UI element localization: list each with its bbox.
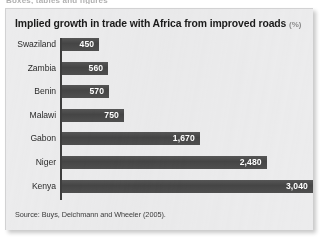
bar-value-label: 450 — [80, 38, 95, 51]
bar: 2,480 — [62, 156, 267, 169]
bar: 1,670 — [62, 132, 200, 145]
bar-category-label: Niger — [6, 156, 56, 169]
bar: 450 — [62, 38, 99, 51]
bar-category-label: Kenya — [6, 180, 56, 193]
bar-row: Zambia560 — [6, 62, 314, 75]
bar: 570 — [62, 85, 109, 98]
bar-value-label: 560 — [89, 62, 104, 75]
bar-row: Malawi750 — [6, 109, 314, 122]
bar-category-label: Benin — [6, 85, 56, 98]
bar-row: Gabon1,670 — [6, 132, 314, 145]
bar-row: Kenya3,040 — [6, 180, 314, 193]
bar-row: Swaziland450 — [6, 38, 314, 51]
bar-chart-plot-area: Swaziland450Zambia560Benin570Malawi750Ga… — [6, 36, 314, 202]
bar-category-label: Gabon — [6, 132, 56, 145]
bar-category-label: Malawi — [6, 109, 56, 122]
bar-value-label: 1,670 — [173, 132, 195, 145]
bar-value-label: 2,480 — [240, 156, 262, 169]
bar-row: Niger2,480 — [6, 156, 314, 169]
figure-title-unit: (%) — [289, 20, 301, 29]
bar: 750 — [62, 109, 124, 122]
figure-page: Boxes, tables and figures Implied growth… — [0, 0, 325, 237]
figure-panel: Implied growth in trade with Africa from… — [5, 8, 313, 230]
bar: 3,040 — [62, 180, 313, 193]
figure-title-text: Implied growth in trade with Africa from… — [15, 18, 286, 29]
bar-value-label: 3,040 — [286, 180, 308, 193]
clipped-running-head: Boxes, tables and figures — [6, 0, 216, 4]
bar-value-label: 570 — [89, 85, 104, 98]
bar: 560 — [62, 62, 108, 75]
bar-row: Benin570 — [6, 85, 314, 98]
bar-value-label: 750 — [104, 109, 119, 122]
bar-category-label: Swaziland — [6, 38, 56, 51]
source-note: Source: Buys, Deichmann and Wheeler (200… — [15, 210, 166, 219]
figure-title: Implied growth in trade with Africa from… — [15, 18, 305, 29]
bar-category-label: Zambia — [6, 62, 56, 75]
